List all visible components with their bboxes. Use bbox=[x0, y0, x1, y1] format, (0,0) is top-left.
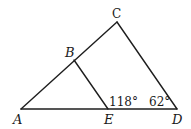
label-point-a: A bbox=[12, 112, 22, 127]
label-point-c: C bbox=[112, 7, 121, 21]
geometry-diagram: A B C D E 118° 62° bbox=[0, 0, 191, 129]
label-point-b: B bbox=[64, 45, 75, 60]
angle-label-e: 118° bbox=[109, 95, 138, 109]
label-point-d: D bbox=[171, 112, 183, 127]
angle-label-d: 62° bbox=[149, 95, 170, 109]
segment-ac bbox=[21, 22, 117, 109]
segment-be bbox=[74, 60, 108, 109]
label-point-e: E bbox=[103, 112, 114, 127]
